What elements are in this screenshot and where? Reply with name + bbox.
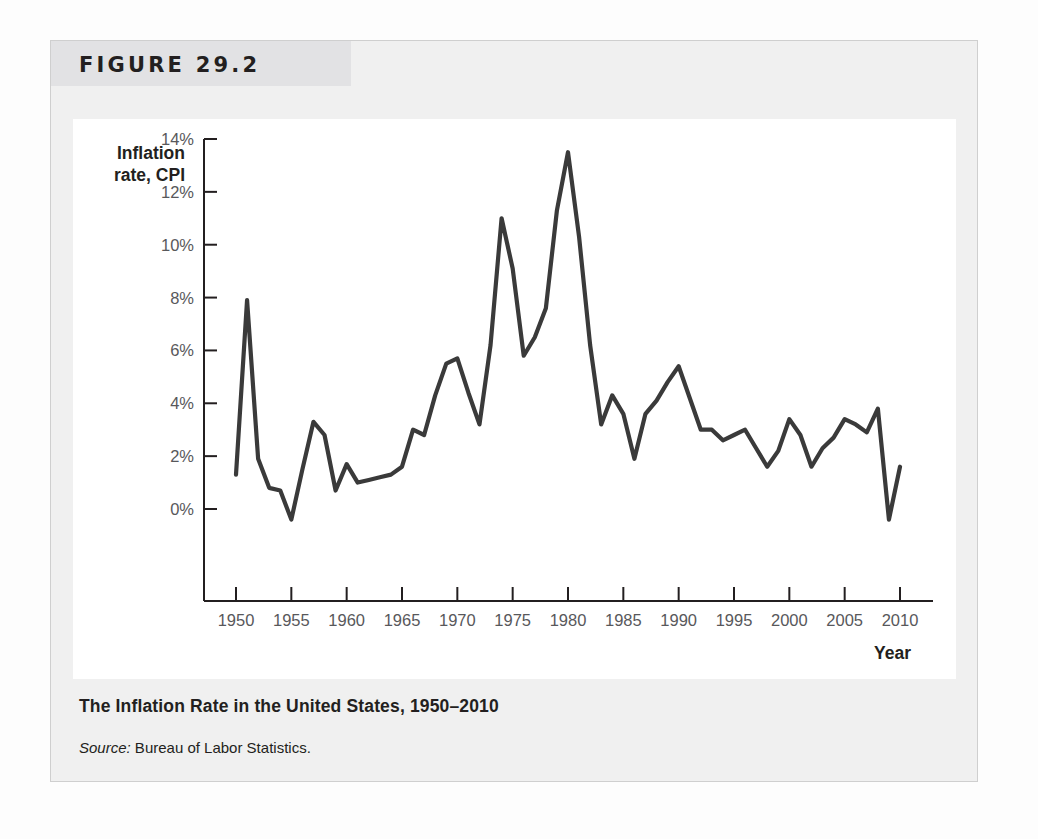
figure-container: FIGURE 29.2 Inflation rate, CPI 0%2%4%6%… [50,40,978,782]
page-surface: FIGURE 29.2 Inflation rate, CPI 0%2%4%6%… [0,0,1038,839]
figure-number-label: FIGURE 29.2 [79,53,260,77]
source-label: Source: [79,739,131,756]
x-tick-label: 1985 [605,611,642,629]
x-tick-label: 1980 [550,611,587,629]
y-axis-ticks: 0%2%4%6%8%10%12%14% [161,130,217,518]
x-tick-label: 1990 [660,611,697,629]
y-tick-label: 4% [170,394,194,412]
x-tick-label: 2010 [882,611,919,629]
x-axis-ticks: 1950195519601965197019751980198519901995… [218,587,919,629]
x-tick-label: 2005 [826,611,863,629]
figure-number-banner: FIGURE 29.2 [51,41,351,86]
y-tick-label: 14% [161,130,194,148]
inflation-line-chart: Inflation rate, CPI 0%2%4%6%8%10%12%14% … [73,119,956,679]
inflation-rate-line [236,152,900,519]
source-text: Bureau of Labor Statistics. [131,739,311,756]
figure-caption-block: The Inflation Rate in the United States,… [79,696,939,756]
chart-panel: Inflation rate, CPI 0%2%4%6%8%10%12%14% … [73,119,956,679]
y-tick-label: 6% [170,341,194,359]
y-tick-label: 2% [170,447,194,465]
y-tick-label: 8% [170,289,194,307]
x-tick-label: 1960 [328,611,365,629]
x-tick-label: 1955 [273,611,310,629]
x-tick-label: 1950 [218,611,255,629]
x-tick-label: 1970 [439,611,476,629]
x-axis-label: Year [874,643,911,663]
x-tick-label: 1995 [716,611,753,629]
x-tick-label: 2000 [771,611,808,629]
figure-source-line: Source: Bureau of Labor Statistics. [79,739,939,756]
figure-caption-title: The Inflation Rate in the United States,… [79,696,939,717]
x-tick-label: 1965 [384,611,421,629]
y-tick-label: 10% [161,236,194,254]
y-tick-label: 0% [170,500,194,518]
x-tick-label: 1975 [494,611,531,629]
y-tick-label: 12% [161,183,194,201]
